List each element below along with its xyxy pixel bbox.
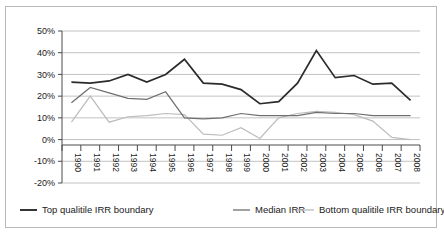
legend-label: Bottom qualitile IRR boundary (319, 204, 444, 215)
x-tick-label: 2006 (374, 153, 384, 172)
x-tick-label: 1992 (111, 153, 121, 172)
y-tick-label: 40% (37, 48, 55, 58)
x-tick-label: 1993 (129, 153, 139, 172)
x-tick-label: 2005 (355, 153, 365, 172)
x-axis-tick-labels: 1990199119921993199419951996199719981999… (73, 153, 422, 172)
x-tick-label: 1996 (186, 153, 196, 172)
x-axis-tick-marks (62, 145, 420, 151)
y-tick-label: -10% (34, 156, 55, 166)
y-tick-label: 10% (37, 113, 55, 123)
legend-label: Top qualitile IRR boundary (42, 204, 154, 215)
x-tick-label: 2003 (318, 153, 328, 172)
x-tick-label: 2004 (337, 153, 347, 172)
y-tick-label: 20% (37, 91, 55, 101)
chart-legend: Top qualitile IRR boundaryMedian IRRBott… (20, 204, 444, 215)
x-tick-label: 1990 (73, 153, 83, 172)
x-tick-label: 2007 (393, 153, 403, 172)
y-tick-label: -20% (34, 178, 55, 188)
irr-boundaries-line-chart: 50%40%30%20%10%0%-10%-20% 19901991199219… (0, 0, 444, 237)
x-tick-label: 1997 (205, 153, 215, 172)
legend-item-bottom-quartile: Bottom qualitile IRR boundary (297, 204, 444, 215)
x-tick-label: 2008 (412, 153, 422, 172)
x-tick-label: 1995 (167, 153, 177, 172)
y-axis-tick-marks (58, 31, 62, 183)
x-tick-label: 2002 (299, 153, 309, 172)
y-tick-label: 0% (42, 135, 55, 145)
x-tick-label: 1994 (148, 153, 158, 172)
legend-item-top-quartile: Top qualitile IRR boundary (20, 204, 154, 215)
y-tick-label: 30% (37, 70, 55, 80)
y-tick-label: 50% (37, 26, 55, 36)
chart-container: 50%40%30%20%10%0%-10%-20% 19901991199219… (0, 0, 444, 237)
x-tick-label: 1998 (224, 153, 234, 172)
y-axis-tick-labels: 50%40%30%20%10%0%-10%-20% (34, 26, 55, 188)
x-tick-label: 1999 (242, 153, 252, 172)
legend-item-median: Median IRR (233, 204, 305, 215)
series-line-median (71, 87, 410, 118)
x-tick-label: 1991 (92, 153, 102, 172)
x-tick-label: 2000 (261, 153, 271, 172)
x-tick-label: 2001 (280, 153, 290, 172)
legend-label: Median IRR (255, 204, 305, 215)
